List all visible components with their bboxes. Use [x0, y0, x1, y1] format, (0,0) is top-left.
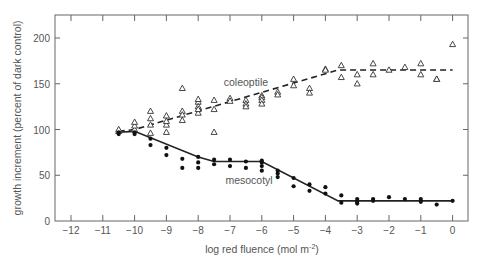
mesocotyl-point	[244, 166, 248, 170]
mesocotyl-point	[260, 164, 264, 168]
mesocotyl-point	[117, 130, 121, 134]
coleoptile-point	[418, 60, 424, 65]
mesocotyl-point	[403, 197, 407, 201]
x-tick-label: −6	[256, 225, 268, 236]
x-axis-label: log red fluence (mol m-2)	[205, 243, 319, 255]
y-tick-label: 100	[33, 125, 50, 136]
growth-fluence-chart: −12−11−10−9−8−7−6−5−4−3−2−10 05010015020…	[0, 0, 480, 267]
plot-border	[55, 15, 468, 221]
y-tick-label: 200	[33, 33, 50, 44]
x-tick-label: −1	[415, 225, 427, 236]
mesocotyl-point	[196, 155, 200, 159]
mesocotyl-point	[133, 130, 137, 134]
y-axis-ticks: 050100150200	[33, 33, 468, 227]
coleoptile-point	[163, 129, 169, 134]
coleoptile-point	[132, 119, 138, 124]
coleoptile-point	[211, 106, 217, 111]
mesocotyl-point	[387, 195, 391, 199]
coleoptile-point	[163, 113, 169, 118]
mesocotyl-point	[276, 171, 280, 175]
annotations: coleoptilemesocotyl	[224, 76, 273, 186]
mesocotyl-point	[371, 199, 375, 203]
coleoptile-point	[354, 81, 360, 86]
mesocotyl-point	[419, 200, 423, 204]
coleoptile-point	[418, 71, 424, 76]
mesocotyl-point	[260, 169, 264, 173]
coleoptile-point	[450, 41, 456, 46]
mesocotyl-point	[180, 157, 184, 161]
coleoptile-point	[338, 62, 344, 67]
mesocotyl-point	[228, 158, 232, 162]
y-axis-label: growth increment (percent of dark contro…	[11, 21, 23, 216]
mesocotyl-point	[148, 137, 152, 141]
coleoptile-point	[179, 117, 185, 122]
coleoptile-point	[179, 85, 185, 90]
coleoptile-point	[211, 129, 217, 134]
x-tick-label: 0	[450, 225, 456, 236]
mesocotyl-point	[196, 166, 200, 170]
coleoptile-point	[211, 97, 217, 102]
mesocotyl-point	[244, 159, 248, 163]
x-tick-label: −3	[351, 225, 363, 236]
coleoptile-point	[148, 108, 154, 113]
coleoptile-point	[195, 96, 201, 101]
x-tick-label: −12	[63, 225, 80, 236]
mesocotyl-point	[339, 201, 343, 205]
coleoptile-point	[370, 71, 376, 76]
mesocotyl-point	[228, 164, 232, 168]
x-tick-label: −2	[383, 225, 395, 236]
x-tick-label: −5	[288, 225, 300, 236]
y-tick-label: 50	[39, 170, 51, 181]
mesocotyl-point	[212, 158, 216, 162]
coleoptile-point	[434, 76, 440, 81]
mesocotyl-point	[307, 182, 311, 186]
mesocotyl-point	[323, 191, 327, 195]
mesocotyl-point	[164, 146, 168, 150]
mesocotyl-point	[339, 193, 343, 197]
mesocotyl-point	[276, 175, 280, 179]
mesocotyl-point	[260, 160, 264, 164]
mesocotyl-point	[307, 189, 311, 193]
x-axis-ticks: −12−11−10−9−8−7−6−5−4−3−2−10	[63, 15, 456, 236]
coleoptile-point	[354, 71, 360, 76]
coleoptile-point	[402, 64, 408, 69]
x-tick-label: −9	[161, 225, 173, 236]
coleoptile-point	[370, 60, 376, 65]
coleoptile-point	[291, 76, 297, 81]
mesocotyl-point	[212, 162, 216, 166]
mesocotyl-point	[323, 185, 327, 189]
mesocotyl-point	[196, 160, 200, 164]
mesocotyl-point	[148, 143, 152, 147]
mesocotyl-point	[292, 184, 296, 188]
mesocotyl-label: mesocotyl	[225, 174, 272, 186]
x-tick-label: −7	[224, 225, 236, 236]
fit-lines	[119, 70, 453, 201]
y-tick-label: 0	[44, 216, 50, 227]
x-tick-label: −4	[320, 225, 332, 236]
x-tick-label: −8	[192, 225, 204, 236]
mesocotyl-point	[292, 176, 296, 180]
x-tick-label: −10	[126, 225, 143, 236]
mesocotyl-point	[180, 166, 184, 170]
coleoptile-point	[338, 74, 344, 79]
mesocotyl-fit-line	[119, 131, 453, 201]
y-tick-label: 150	[33, 79, 50, 90]
x-tick-label: −11	[95, 225, 112, 236]
mesocotyl-point	[435, 202, 439, 206]
data-points	[116, 41, 456, 206]
coleoptile-point	[148, 130, 154, 135]
mesocotyl-point	[451, 199, 455, 203]
coleoptile-point	[148, 115, 154, 120]
mesocotyl-point	[355, 202, 359, 206]
mesocotyl-point	[164, 153, 168, 157]
coleoptile-label: coleoptile	[224, 76, 269, 88]
plot-frame	[55, 15, 468, 221]
